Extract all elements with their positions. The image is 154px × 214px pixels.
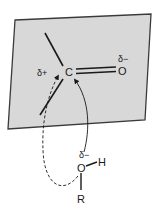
carbonyl-carbon-label: C [65, 66, 73, 78]
bond-o-h [86, 162, 97, 166]
carbon-partial-positive: δ+ [37, 68, 47, 78]
oxygen-partial-negative: δ− [118, 54, 128, 64]
nucleophile-partial-negative: δ− [79, 150, 89, 160]
carbonyl-oxygen-label: O [118, 65, 127, 77]
carbonyl-plane [8, 14, 151, 129]
nucleophile-oxygen-label: O [77, 162, 86, 174]
diagram-canvas: C δ+ O δ− δ− O H R [0, 0, 154, 214]
hydrogen-label: H [98, 156, 106, 168]
r-group-label: R [77, 193, 85, 205]
